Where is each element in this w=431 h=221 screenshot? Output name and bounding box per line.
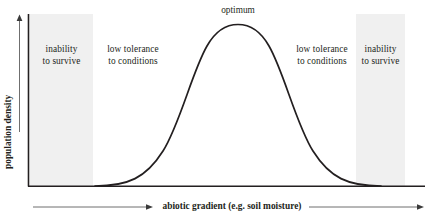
zone-label-inability-to-survive-left: inability to survive [30,44,93,67]
shaded-band-right [356,14,405,186]
zone-label-inability-to-survive-right: inability to survive [356,44,405,67]
zone-label-low-tolerance-left: low tolerance to conditions [95,44,171,67]
annotation-optimum: optimum [208,5,268,15]
zone-label-line-1: low tolerance [107,44,159,54]
y-axis-arrow [17,15,23,133]
zone-label-line-2: to survive [30,56,93,68]
y-axis-label: population density [3,92,13,172]
zone-label-line-2: to conditions [95,56,171,68]
zone-label-line-2: to conditions [284,56,360,68]
chart-canvas [0,0,431,221]
x-axis-label: abiotic gradient (e.g. soil moisture) [155,201,309,211]
zone-label-low-tolerance-right: low tolerance to conditions [284,44,360,67]
zone-label-line-2: to survive [356,56,405,68]
zone-label-line-1: inability [365,44,397,54]
shaded-band-left [30,14,93,186]
zone-label-line-1: inability [46,44,78,54]
zone-label-line-1: low tolerance [296,44,348,54]
ecology-tolerance-curve-figure: inability to survive low tolerance to co… [0,0,431,221]
